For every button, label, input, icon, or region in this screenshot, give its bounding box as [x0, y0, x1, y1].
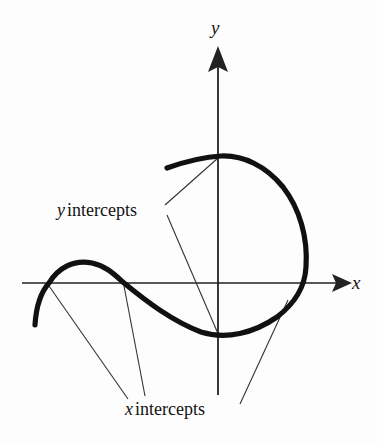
- plotted-curve: [35, 156, 306, 335]
- y-intercepts-variable: y: [57, 200, 67, 220]
- x-intercept-leader-lines: [49, 286, 288, 404]
- leader-line-x-intercept-middle: [124, 286, 145, 396]
- x-axis-label: x: [352, 273, 360, 292]
- y-intercepts-text: intercepts: [67, 200, 137, 220]
- y-intercepts-annotation: yintercepts: [57, 201, 137, 219]
- y-intercept-leader-lines: [165, 158, 219, 336]
- figure-canvas: [0, 0, 377, 446]
- x-intercepts-text: intercepts: [135, 399, 205, 419]
- y-axis: [208, 46, 228, 395]
- intercepts-figure: y x yintercepts xintercepts: [0, 0, 377, 446]
- x-intercepts-variable: x: [125, 399, 135, 419]
- x-intercepts-annotation: xintercepts: [125, 400, 205, 418]
- y-axis-label: y: [211, 18, 219, 37]
- leader-line-x-intercept-left: [49, 286, 128, 399]
